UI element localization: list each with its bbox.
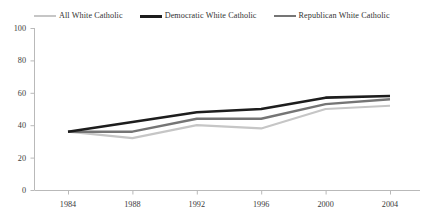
legend-swatch-line-icon	[34, 15, 56, 17]
x-axis-tick-label: 2000	[306, 200, 346, 209]
legend-swatch-line-icon	[274, 15, 296, 17]
x-axis-tick-label: 1992	[177, 200, 217, 209]
legend-swatch-line-icon	[140, 15, 162, 18]
plot-canvas	[0, 24, 436, 196]
x-axis-tick-label: 2004	[370, 200, 410, 209]
y-axis-tick-label: 80	[0, 56, 26, 65]
plot-area: 020406080100 198419881992199620002004	[0, 24, 436, 196]
legend-item-all-white-catholic[interactable]: All White Catholic	[34, 11, 123, 21]
y-axis-tick-label: 60	[0, 88, 26, 97]
legend-label: All White Catholic	[59, 11, 123, 21]
y-axis-tick-label: 40	[0, 121, 26, 130]
chart-footnote	[0, 211, 436, 219]
x-axis-tick-label: 1996	[241, 200, 281, 209]
x-axis-tick-label: 1984	[48, 200, 88, 209]
legend-item-democratic-white-catholic[interactable]: Democratic White Catholic	[140, 11, 257, 21]
line-chart: All White Catholic Democratic White Cath…	[0, 0, 436, 219]
legend-label: Democratic White Catholic	[165, 11, 257, 21]
chart-legend: All White Catholic Democratic White Cath…	[0, 8, 436, 24]
y-axis-tick-label: 0	[0, 186, 26, 195]
x-axis-tick-label: 1988	[112, 200, 152, 209]
y-axis-tick-label: 20	[0, 153, 26, 162]
legend-label: Republican White Catholic	[299, 11, 390, 21]
y-axis-tick-label: 100	[0, 24, 26, 33]
legend-item-republican-white-catholic[interactable]: Republican White Catholic	[274, 11, 390, 21]
